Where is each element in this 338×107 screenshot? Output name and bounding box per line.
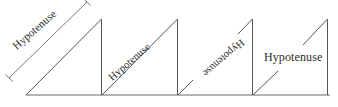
- triangle-4-hypotenuse-upper: [303, 19, 328, 45]
- triangle-4-hypotenuse-lower: [253, 71, 278, 95]
- triangle-4-hypotenuse-label: Hypotenuse: [264, 50, 322, 65]
- triangle-3-hypotenuse-lower: [178, 80, 193, 95]
- triangle-3-hypotenuse-upper: [238, 19, 253, 34]
- hypotenuse-label-figure: Hypotenuse Hypotenuse Hypotenuse Hypoten…: [0, 0, 338, 107]
